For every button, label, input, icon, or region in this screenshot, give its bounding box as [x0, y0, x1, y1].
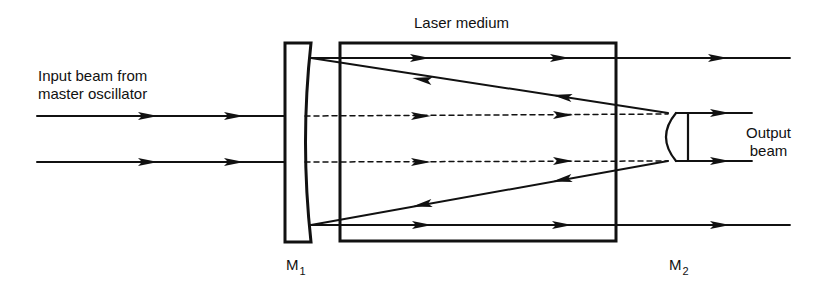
m2-label: M2: [669, 256, 689, 275]
resonator-diagram: [0, 0, 837, 287]
laser-medium-box: [340, 43, 616, 241]
m1-label: M1: [286, 256, 306, 275]
mirror-m1: [285, 43, 311, 242]
arrow-left-icon: [552, 174, 573, 185]
input-beam-label: Input beam from master oscillator: [38, 67, 147, 103]
beam-diagonal-lower: [311, 161, 668, 225]
arrow-left-icon: [412, 199, 433, 210]
beam-diagonal-upper: [311, 58, 668, 113]
beam-dashed-lower: [305, 161, 668, 162]
arrow-right-icon: [553, 157, 573, 165]
laser-medium-label: Laser medium: [414, 14, 509, 32]
arrow-right-icon: [553, 111, 573, 119]
mirror-m2: [666, 113, 676, 161]
beam-dashed-upper: [305, 114, 668, 116]
output-beam-label: Output beam: [746, 124, 791, 160]
